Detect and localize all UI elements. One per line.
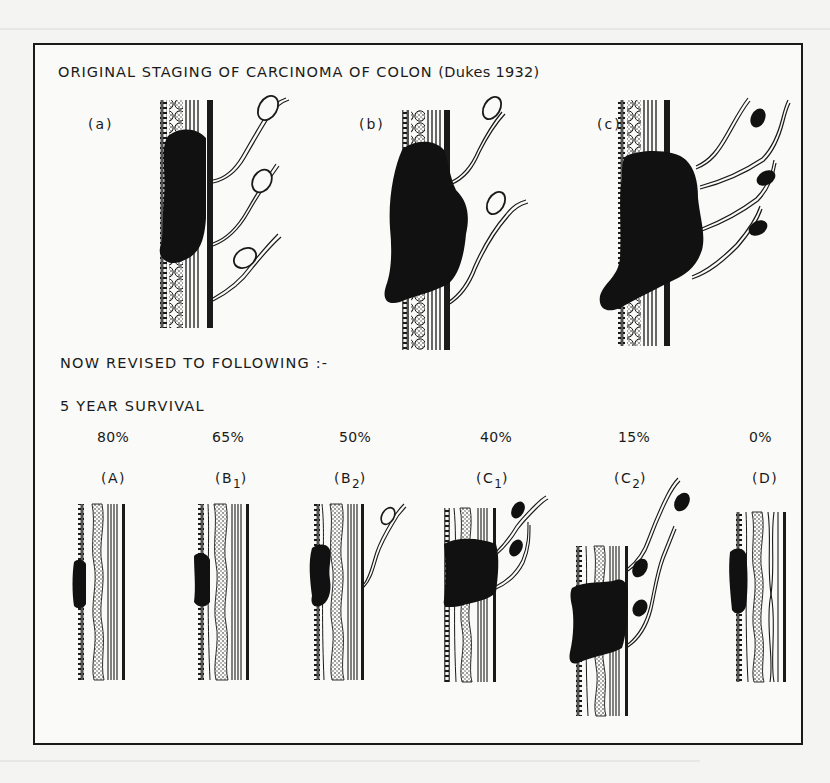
stage-subscript: 1 xyxy=(494,477,502,491)
stage-letter: D xyxy=(759,470,771,486)
revised-label-c1: (C1) xyxy=(476,470,509,491)
illustration-stage-a xyxy=(150,98,300,334)
stage-letter: B xyxy=(222,470,233,486)
bleed-through-line xyxy=(0,28,830,30)
illustration-stage-C1 xyxy=(438,496,548,686)
figure-title: ORIGINAL STAGING OF CARCINOMA OF COLON (… xyxy=(58,64,539,80)
revised-heading: NOW REVISED TO FOLLOWING :- xyxy=(60,355,328,371)
survival-value-b2: 50% xyxy=(339,429,371,445)
illustration-stage-A xyxy=(70,504,130,684)
survival-value-b1: 65% xyxy=(212,429,244,445)
stage-letter: C xyxy=(483,470,494,486)
revised-label-b1: (B1) xyxy=(215,470,248,491)
survival-value-d: 0% xyxy=(749,429,772,445)
bleed-through-line xyxy=(0,760,700,762)
survival-heading: 5 YEAR SURVIVAL xyxy=(60,398,205,414)
illustration-stage-D xyxy=(726,510,796,690)
illustration-stage-C2 xyxy=(566,476,696,720)
title-citation: (Dukes 1932) xyxy=(438,64,539,80)
survival-value-a: 80% xyxy=(97,429,129,445)
revised-label-b2: (B2) xyxy=(334,470,367,491)
stage-subscript: 2 xyxy=(352,477,360,491)
illustration-stage-B2 xyxy=(306,500,406,684)
survival-value-c1: 40% xyxy=(480,429,512,445)
illustration-stage-B1 xyxy=(190,504,260,684)
illustration-stage-b xyxy=(378,98,538,354)
revised-label-a: (A) xyxy=(101,470,126,486)
stage-label-a: (a) xyxy=(88,116,114,132)
title-text: ORIGINAL STAGING OF CARCINOMA OF COLON xyxy=(58,64,433,80)
revised-label-d: (D) xyxy=(752,470,778,486)
illustration-stage-c xyxy=(598,98,798,350)
stage-letter: A xyxy=(108,470,119,486)
stage-letter: B xyxy=(341,470,352,486)
survival-value-c2: 15% xyxy=(618,429,650,445)
stage-subscript: 1 xyxy=(233,477,241,491)
